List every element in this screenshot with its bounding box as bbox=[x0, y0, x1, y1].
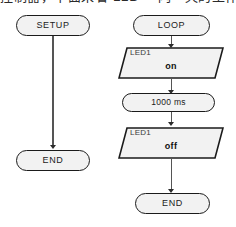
loop-end-terminal[interactable]: END bbox=[135, 193, 210, 214]
setup-start-terminal[interactable]: SETUP bbox=[16, 15, 90, 36]
connector-led-off-to-end bbox=[171, 158, 172, 191]
led-on-value: on bbox=[118, 62, 224, 71]
led-on-io-block[interactable]: LED1 on bbox=[118, 47, 224, 79]
delay-label: 1000 ms bbox=[151, 98, 186, 107]
led-off-value: off bbox=[118, 142, 224, 151]
led-off-io-block[interactable]: LED1 off bbox=[118, 127, 224, 159]
page-caption-text: 控制器，下面来看 LED 一闪一灭的工作过程。 bbox=[0, 0, 236, 5]
setup-end-label: END bbox=[43, 156, 64, 165]
arrowhead-delay-to-led-off-icon bbox=[168, 122, 174, 126]
connector-setup-to-end bbox=[52, 36, 53, 147]
loop-start-terminal[interactable]: LOOP bbox=[133, 15, 210, 36]
loop-start-label: LOOP bbox=[158, 21, 185, 30]
setup-start-label: SETUP bbox=[36, 21, 69, 30]
led-off-title: LED1 bbox=[130, 129, 151, 137]
arrowhead-setup-to-end-icon bbox=[50, 145, 56, 149]
setup-end-terminal[interactable]: END bbox=[16, 150, 90, 171]
delay-process-node[interactable]: 1000 ms bbox=[122, 93, 215, 112]
led-on-title: LED1 bbox=[130, 49, 151, 57]
flowchart-canvas: 控制器，下面来看 LED 一闪一灭的工作过程。 SETUP END LOOP L… bbox=[0, 0, 236, 227]
loop-end-label: END bbox=[162, 199, 183, 208]
